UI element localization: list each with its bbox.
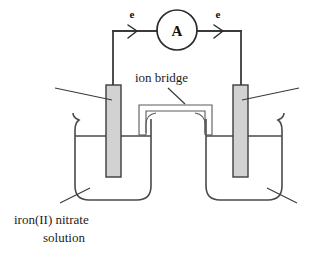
ion-bridge [139,105,212,135]
electron-label-left: e [130,8,135,20]
ammeter: A [157,10,197,50]
ammeter-label: A [172,23,183,39]
electron-label-right: e [216,8,221,20]
ion-bridge-label: ion bridge [135,70,188,85]
solution-label-line1: iron(II) nitrate [14,212,89,227]
ion-bridge-leader [168,88,185,104]
electron-flow-left: e [128,8,137,38]
solution-label-line2: solution [43,230,85,245]
electrochemical-cell-diagram: A e e ion bridge iron(II) nitrate soluti… [0,0,310,253]
electron-flow-right: e [214,8,223,38]
left-electrode-leader [55,88,112,100]
right-electrode-leader [242,88,299,100]
cell-diagram-canvas: A e e ion bridge iron(II) nitrate soluti… [0,0,310,253]
